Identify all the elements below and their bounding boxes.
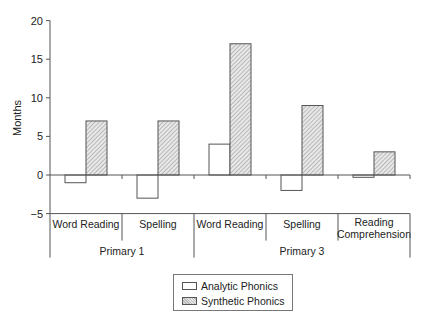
- synthetic-bar: [374, 152, 395, 175]
- bar-chart: −505101520 Word ReadingSpellingPrimary 1…: [0, 0, 423, 270]
- y-tick-label: 20: [31, 15, 43, 27]
- x-group-label: Primary 3: [280, 245, 325, 257]
- legend: Analytic Phonics Synthetic Phonics: [173, 274, 293, 311]
- x-category-label: Word Reading: [197, 218, 264, 230]
- y-tick-label: 0: [37, 169, 43, 181]
- legend-label: Analytic Phonics: [201, 280, 278, 292]
- synthetic-bar: [230, 44, 251, 175]
- synthetic-swatch-icon: [182, 297, 197, 305]
- x-category-label: Reading: [354, 216, 393, 228]
- analytic-bar: [65, 175, 86, 183]
- y-tick-label: −5: [30, 208, 43, 220]
- x-axis: Word ReadingSpellingPrimary 1Word Readin…: [50, 175, 411, 258]
- x-category-label: Spelling: [139, 218, 177, 230]
- analytic-bar: [209, 144, 230, 175]
- x-category-label: Word Reading: [53, 218, 120, 230]
- y-axis-label: Months: [11, 99, 23, 136]
- y-tick-label: 10: [31, 92, 43, 104]
- synthetic-bar: [86, 121, 107, 175]
- legend-item-analytic: Analytic Phonics: [182, 279, 278, 292]
- legend-label: Synthetic Phonics: [201, 295, 284, 307]
- y-tick-label: 5: [37, 130, 43, 142]
- x-group-label: Primary 1: [100, 245, 145, 257]
- analytic-swatch-icon: [182, 282, 197, 290]
- synthetic-bar: [158, 121, 179, 175]
- y-axis: −505101520: [30, 15, 50, 220]
- x-category-label: Spelling: [283, 218, 321, 230]
- analytic-bar: [281, 175, 302, 190]
- analytic-bar: [137, 175, 158, 198]
- y-tick-label: 15: [31, 53, 43, 65]
- synthetic-bar: [302, 106, 323, 175]
- x-category-label: Comprehension: [337, 228, 411, 240]
- legend-item-synthetic: Synthetic Phonics: [182, 294, 284, 307]
